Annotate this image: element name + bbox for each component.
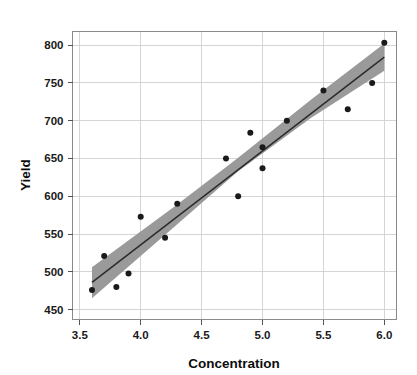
data-point <box>345 106 351 112</box>
y-tick-label: 500 <box>44 266 63 278</box>
data-point <box>138 214 144 220</box>
data-point <box>89 287 95 293</box>
x-tick-label: 3.5 <box>72 329 89 341</box>
x-tick-label: 6.0 <box>376 329 392 341</box>
y-axis-title: Yield <box>18 159 33 191</box>
y-tick-labels: 450500550600650700750800 <box>44 39 63 316</box>
plot-canvas: 3.54.04.55.05.56.0 450500550600650700750… <box>0 0 417 375</box>
x-tick-label: 4.5 <box>194 329 211 341</box>
y-tick-label: 450 <box>44 304 63 316</box>
x-axis-title: Concentration <box>188 356 280 371</box>
confidence-band <box>92 44 384 299</box>
y-tick-label: 800 <box>44 39 63 51</box>
data-point <box>113 284 119 290</box>
data-point <box>320 87 326 93</box>
data-point <box>174 201 180 207</box>
x-tick-label: 5.0 <box>255 329 271 341</box>
data-point <box>126 270 132 276</box>
data-point <box>247 130 253 136</box>
data-point <box>284 118 290 124</box>
data-point <box>260 144 266 150</box>
y-tick-label: 650 <box>44 152 63 164</box>
data-point <box>260 165 266 171</box>
data-point <box>162 235 168 241</box>
regression-line <box>92 57 384 282</box>
x-tick-label: 4.0 <box>133 329 149 341</box>
confidence-interval-band <box>92 44 384 299</box>
regression-fit-line <box>92 57 384 282</box>
data-point <box>235 193 241 199</box>
data-point <box>101 253 107 259</box>
scatter-plot-figure: 3.54.04.55.05.56.0 450500550600650700750… <box>0 0 417 375</box>
data-point <box>381 40 387 46</box>
y-tick-label: 600 <box>44 190 63 202</box>
x-tick-labels: 3.54.04.55.05.56.0 <box>72 329 393 341</box>
x-tick-label: 5.5 <box>315 329 332 341</box>
y-tick-label: 700 <box>44 115 63 127</box>
y-tick-label: 550 <box>44 228 63 240</box>
data-point <box>369 80 375 86</box>
y-tick-label: 750 <box>44 77 63 89</box>
data-point <box>223 155 229 161</box>
